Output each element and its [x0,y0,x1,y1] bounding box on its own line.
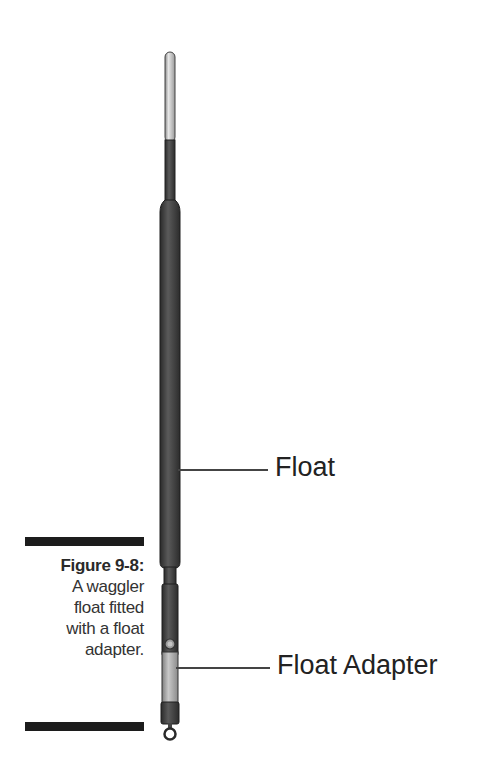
caption-line-3: with a float [20,618,144,639]
float-callout-label: Float [275,452,335,483]
float-neck [164,567,176,585]
float-stem [165,140,175,204]
float-adapter-leader-line [176,667,270,669]
caption-line-4: adapter. [20,639,144,660]
caption-top-rule [25,537,144,546]
adapter-eye-ring-icon [165,723,176,740]
float-body [160,200,180,568]
adapter-collar [161,702,179,724]
float-tip [165,52,175,142]
float-adapter-callout-label: Float Adapter [277,650,438,681]
float-leader-line [178,469,268,471]
figure-caption: Figure 9-8: A waggler float fitted with … [20,555,144,660]
caption-bottom-rule [25,722,144,731]
caption-line-1: A waggler [20,576,144,597]
caption-line-2: float fitted [20,597,144,618]
figure-number: Figure 9-8: [20,555,144,576]
